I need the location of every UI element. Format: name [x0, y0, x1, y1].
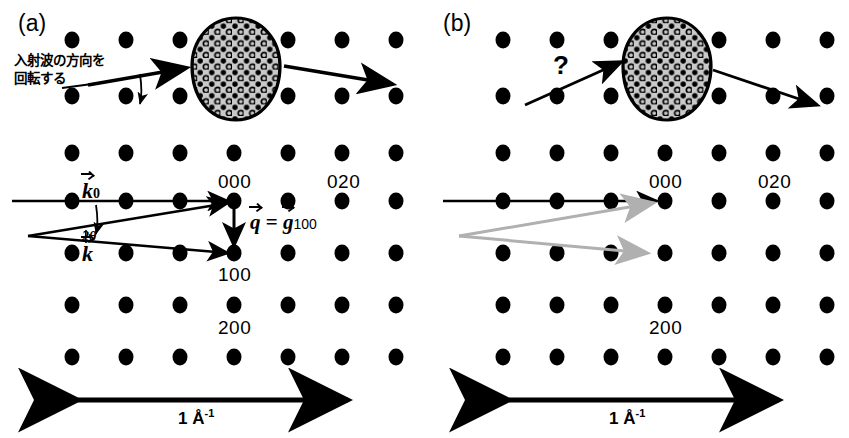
transmitted-beam-arrow-a — [284, 66, 392, 84]
panel-b: (b) ? 000 020 200 1 Å-1 — [425, 0, 849, 438]
question-mark-label-b: ? — [553, 52, 569, 78]
crystal-specimen-a — [192, 18, 280, 120]
index-200-b: 200 — [649, 318, 682, 337]
k-label-a: k — [82, 243, 93, 265]
annotation-jp-line1-a: 入射波の方向を — [14, 52, 105, 68]
q-equals-g-label-a: q = g100 — [250, 212, 317, 233]
transmitted-beam-arrow-b — [713, 70, 817, 105]
incident-beam-arrow-a — [88, 68, 186, 85]
panel-label-a: (a) — [18, 12, 46, 35]
rotation-hint-arrow-a — [140, 74, 142, 104]
annotation-jp-line2-a: 回転する — [14, 70, 66, 86]
index-020-a: 020 — [327, 172, 360, 191]
two-theta-label-a: 2θ — [82, 230, 96, 244]
crystal-specimen-b — [623, 18, 711, 120]
panel-label-b: (b) — [443, 12, 471, 35]
index-200-a: 200 — [218, 318, 251, 337]
figure-root: (a) 入射波の方向を 回転する 000 020 100 200 k0 k 2θ… — [0, 0, 849, 438]
panel-a: (a) 入射波の方向を 回転する 000 020 100 200 k0 k 2θ… — [0, 0, 424, 438]
panel-b-graphics — [425, 0, 849, 438]
k0-label-a: k0 — [82, 180, 100, 202]
scale-bar-label-b: 1 Å-1 — [609, 408, 645, 427]
scale-bar-label-a: 1 Å-1 — [178, 408, 214, 427]
annotation-leader-a — [62, 84, 92, 88]
index-000-a: 000 — [218, 172, 251, 191]
index-000-b: 000 — [649, 172, 682, 191]
index-020-b: 020 — [758, 172, 791, 191]
index-100-a: 100 — [218, 265, 251, 284]
